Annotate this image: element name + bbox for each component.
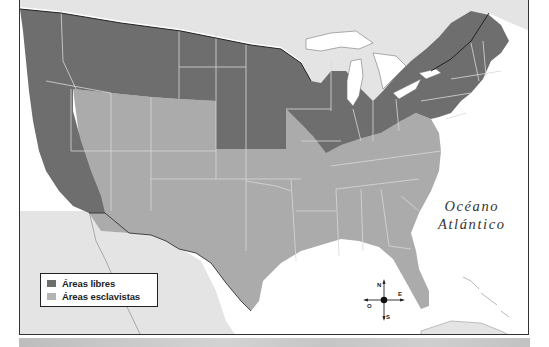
swatch-slave-icon (47, 293, 56, 300)
compass-north: N (377, 282, 381, 288)
compass-west: O (367, 303, 372, 309)
caribbean-islands (463, 277, 509, 317)
legend-item-slave: Áreas esclavistas (47, 290, 151, 303)
map-frame: Océano Atlántico Áreas libres Áreas escl… (19, 0, 529, 335)
bottom-strip (19, 338, 530, 347)
legend-item-free: Áreas libres (47, 277, 151, 290)
compass-south: S (386, 314, 390, 320)
legend-label-slave: Áreas esclavistas (62, 291, 140, 302)
swatch-free-icon (47, 280, 56, 287)
legend-label-free: Áreas libres (62, 278, 115, 289)
compass-east: E (398, 291, 402, 297)
compass-rose-icon: N S E O (359, 277, 409, 323)
ocean-label-line1: Océano (438, 197, 506, 215)
ocean-label: Océano Atlántico (438, 197, 506, 233)
cuba-land (421, 321, 511, 335)
map-legend: Áreas libres Áreas esclavistas (40, 273, 158, 307)
ocean-label-line2: Atlántico (438, 215, 506, 233)
